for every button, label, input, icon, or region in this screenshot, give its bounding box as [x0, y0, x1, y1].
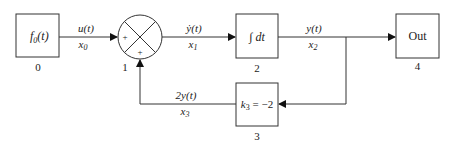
signal-y: y(t) x2 [278, 22, 395, 52]
block-diagram: f0(t) 0 u(t) x0 + + 1 ẏ(t) x1 ∫ dt 2 y(t… [0, 0, 454, 147]
svg-text:x2: x2 [308, 38, 318, 52]
sign-bottom: + [137, 47, 142, 57]
signal-u: u(t) x0 [59, 22, 117, 52]
block-number-3: 3 [254, 130, 260, 142]
signal-ydot: ẏ(t) x1 [162, 22, 235, 52]
svg-text:2y(t): 2y(t) [176, 89, 197, 102]
svg-text:Out: Out [409, 29, 428, 43]
svg-text:f0(t): f0(t) [30, 29, 49, 45]
block-number-2: 2 [254, 62, 260, 74]
svg-text:x0: x0 [78, 38, 88, 52]
svg-text:ẏ(t): ẏ(t) [185, 22, 202, 35]
svg-text:x1: x1 [188, 38, 198, 52]
block-number-4: 4 [415, 60, 421, 72]
block-integrator: ∫ dt 2 [236, 14, 278, 74]
block-number-1: 1 [122, 61, 128, 73]
svg-text:y(t): y(t) [305, 22, 322, 35]
svg-text:k3 = −2: k3 = −2 [241, 98, 273, 112]
signal-2y: 2y(t) x3 [140, 60, 236, 119]
block-number-0: 0 [35, 61, 41, 73]
sign-left: + [122, 32, 127, 42]
block-source-f0: f0(t) 0 [16, 14, 59, 73]
svg-text:∫ dt: ∫ dt [248, 30, 265, 44]
svg-text:u(t): u(t) [78, 22, 94, 35]
svg-text:x3: x3 [180, 105, 190, 119]
block-output: Out 4 [396, 14, 439, 72]
block-gain: k3 = −2 3 [236, 83, 278, 142]
